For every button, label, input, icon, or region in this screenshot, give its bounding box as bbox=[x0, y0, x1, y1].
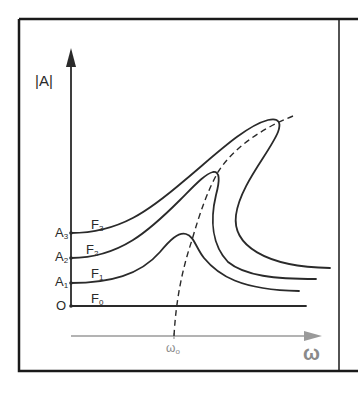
curve-label-f1: F1 bbox=[91, 267, 103, 282]
diagram-canvas bbox=[0, 0, 358, 396]
backbone-curve bbox=[174, 116, 293, 336]
curve-label-f3: F3 bbox=[91, 218, 103, 233]
curve-f2 bbox=[71, 172, 316, 279]
x-axis bbox=[71, 331, 322, 341]
curve-label-f2: F2 bbox=[86, 243, 98, 258]
response-curves bbox=[71, 119, 330, 306]
resonance-frequency-label: ωo bbox=[166, 342, 180, 356]
origin-label: O bbox=[56, 299, 66, 312]
frame bbox=[19, 19, 358, 371]
level-a2: A2 bbox=[55, 250, 68, 265]
y-axis-arrow-icon bbox=[66, 48, 76, 67]
level-a3: A3 bbox=[55, 226, 68, 241]
x-axis-arrow-icon bbox=[304, 331, 322, 341]
y-axis bbox=[66, 48, 76, 306]
curve-f3 bbox=[71, 119, 330, 268]
x-axis-label: ω bbox=[303, 343, 320, 363]
y-axis-label: |A| bbox=[35, 73, 53, 88]
level-a1: A1 bbox=[55, 275, 68, 290]
curve-label-f0: F0 bbox=[91, 292, 103, 307]
